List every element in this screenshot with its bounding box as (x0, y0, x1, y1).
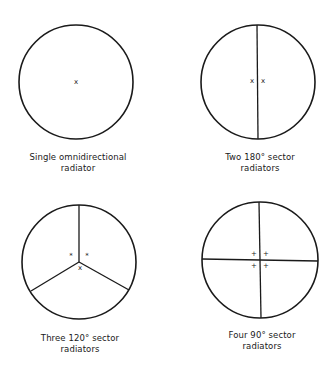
caption-line-2: radiators (190, 163, 330, 174)
caption-line-1: Four 90° sector (192, 330, 332, 341)
panel-three-120-sectors: * * x (22, 205, 136, 319)
caption-three-120-sectors: Three 120° sector radiators (10, 333, 150, 355)
caption-line-2: radiators (10, 344, 150, 355)
caption-line-2: radiators (192, 341, 332, 352)
sector-divider-vertical (257, 25, 258, 139)
radiator-marker-upper-left: * (69, 252, 73, 260)
caption-line-1: Single omnidirectional (8, 152, 148, 163)
caption-single-omnidirectional: Single omnidirectional radiator (8, 152, 148, 174)
panel-four-90-sectors: + + + + (202, 202, 318, 318)
radiator-marker-bottom: x (78, 264, 82, 272)
radiator-marker-right: x (261, 77, 265, 85)
radiator-marker-left: x (250, 77, 254, 85)
radiator-marker-lower-right: + (263, 262, 269, 270)
panel-single-omnidirectional: x (19, 25, 133, 139)
caption-four-90-sectors: Four 90° sector radiators (192, 330, 332, 352)
sector-divider-down-right (79, 262, 129, 290)
caption-line-1: Three 120° sector (10, 333, 150, 344)
radiator-marker: x (74, 78, 78, 86)
radiator-marker-upper-right: * (85, 252, 89, 260)
radiator-marker-lower-left: + (251, 262, 257, 270)
radiator-marker-upper-left: + (251, 250, 257, 258)
sector-divider-down-left (31, 262, 79, 291)
sector-radiator-diagram: x x x * * x + + + + (0, 0, 334, 366)
panel-two-180-sectors: x x (201, 25, 315, 139)
caption-line-1: Two 180° sector (190, 152, 330, 163)
radiator-marker-upper-right: + (263, 250, 269, 258)
caption-line-2: radiator (8, 163, 148, 174)
caption-two-180-sectors: Two 180° sector radiators (190, 152, 330, 174)
